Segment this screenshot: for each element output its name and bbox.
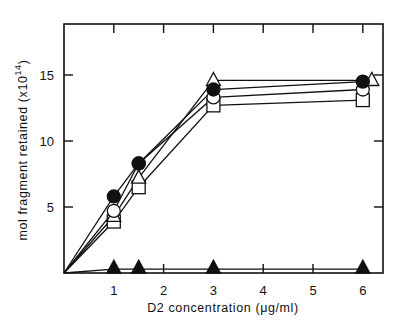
data-markers (107, 72, 379, 273)
x-tick-label: 1 (110, 283, 117, 298)
x-axis-title: D2 concentration (μg/ml) (147, 301, 299, 315)
y-tick-label: 10 (40, 134, 54, 149)
marker-filled-circle (132, 157, 145, 170)
marker-filled-triangle (206, 260, 220, 273)
x-tick-label: 5 (309, 283, 316, 298)
y-tick-label: 5 (47, 200, 54, 215)
x-tick-label: 6 (359, 283, 366, 298)
y-axis-title-exponent: 14 (13, 64, 23, 75)
y-tick-label: 15 (40, 68, 54, 83)
tick-labels: 12345651015 (40, 68, 367, 298)
x-tick-label: 3 (210, 283, 217, 298)
marker-filled-circle (356, 75, 369, 88)
y-axis-title-main: mol fragment retained (x10 (16, 76, 30, 241)
x-tick-label: 4 (260, 283, 267, 298)
marker-open-circle (107, 204, 120, 217)
marker-filled-triangle (356, 260, 370, 273)
series-line-open-square (64, 100, 363, 273)
marker-filled-triangle (107, 260, 121, 273)
axis-ticks (64, 24, 383, 273)
y-axis-title-suffix: ) (16, 60, 30, 65)
plot-border (64, 24, 383, 273)
marker-filled-circle (207, 83, 220, 96)
chart: 12345651015 D2 concentration (μg/ml) mol… (0, 0, 403, 333)
series-line-open-circle (64, 90, 363, 273)
marker-filled-circle (107, 190, 120, 203)
marker-filled-triangle (132, 260, 146, 273)
plot-frame (64, 24, 383, 273)
x-tick-label: 2 (160, 283, 167, 298)
y-axis-title: mol fragment retained (x1014) (13, 60, 30, 241)
